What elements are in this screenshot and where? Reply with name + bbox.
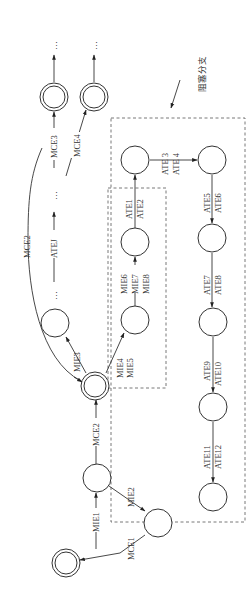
- state-mie4: [121, 306, 149, 334]
- label-ate3: ATE 3: [160, 153, 170, 175]
- state-ate5: [198, 224, 226, 252]
- label-ate7: ATE7: [202, 275, 212, 295]
- label-mie2: MIE2: [126, 487, 136, 507]
- label-mie3: MIE3: [72, 352, 82, 372]
- label-mie8: MIE8: [141, 274, 151, 294]
- state-ate7: [199, 308, 227, 336]
- label-ate11: ATE11: [202, 445, 212, 469]
- edge-mce1-arrow: [80, 553, 120, 560]
- state-transition-diagram: 阻塞分支 MIE1 MIE2 MCE1 MCE2 MIE3 MIE4 MIE5 …: [0, 0, 252, 605]
- label-mie1: MIE1: [91, 512, 101, 532]
- ellipsis-atej-bottom: …: [49, 291, 59, 300]
- label-mie6: MIE6: [119, 274, 129, 294]
- state-mie3: [41, 309, 69, 337]
- state-ate3: [198, 146, 226, 174]
- state-top-mce4: [80, 83, 108, 111]
- blocking-branch-label: 阻塞分支: [197, 56, 207, 92]
- state-start: [52, 549, 80, 577]
- label-ate10: ATE10: [213, 362, 223, 386]
- label-ate6: ATE6: [213, 193, 223, 213]
- edge-mce2-curve-arrow: [74, 377, 82, 382]
- state-ate9: [199, 393, 227, 421]
- label-ate9: ATE9: [202, 361, 212, 381]
- label-mie4: MIE4: [115, 357, 125, 378]
- label-mce2-curve: MCE2: [22, 235, 32, 258]
- label-atej: ATEJ: [49, 238, 59, 258]
- label-mie5: MIE5: [125, 358, 135, 378]
- label-mce4: MCE4: [72, 134, 82, 157]
- state-n1: [83, 464, 111, 492]
- ellipsis-top-right: …: [89, 41, 99, 50]
- label-ate1: ATE1: [124, 199, 134, 219]
- label-mce1: MCE1: [126, 537, 136, 560]
- edge-mce2-curve: [28, 148, 81, 381]
- label-mce3: MCE3: [49, 135, 59, 158]
- label-ate8: ATE8: [213, 275, 223, 295]
- label-ate5: ATE5: [202, 193, 212, 213]
- label-ate4: ATE 4: [171, 152, 181, 175]
- label-mie7: MIE7: [130, 274, 140, 294]
- ellipsis-top-left: …: [49, 41, 59, 50]
- state-top-mce3: [40, 83, 68, 111]
- annotation-arrow: [171, 80, 180, 108]
- label-ate12: ATE12: [213, 445, 223, 469]
- state-mie2: [144, 509, 172, 537]
- state-ate1: [121, 146, 149, 174]
- state-ate11: [199, 483, 227, 511]
- label-ate2: ATE2: [135, 199, 145, 219]
- state-mie6: [121, 228, 149, 256]
- state-mid: [81, 372, 109, 400]
- ellipsis-atej-top: …: [49, 191, 59, 200]
- label-mce2-straight: MCE2: [91, 423, 101, 446]
